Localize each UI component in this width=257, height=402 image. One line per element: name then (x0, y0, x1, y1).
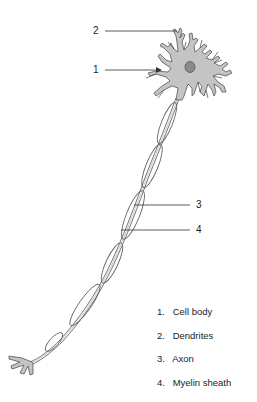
legend-item-cell-body: 1. Cell body (157, 300, 231, 324)
callout-4: 4 (196, 225, 202, 235)
legend-item-dendrites: 2. Dendrites (157, 324, 231, 348)
legend: 1. Cell body 2. Dendrites 3. Axon 4. Mye… (157, 300, 231, 394)
legend-number: 1. (157, 300, 170, 324)
legend-label: Myelin sheath (173, 377, 232, 388)
nucleus (185, 62, 195, 73)
legend-item-axon: 3. Axon (157, 347, 231, 371)
callout-2: 2 (93, 26, 99, 36)
callout-3: 3 (196, 200, 202, 210)
legend-number: 2. (157, 324, 170, 348)
legend-item-myelin-sheath: 4. Myelin sheath (157, 371, 231, 395)
legend-label: Cell body (173, 306, 213, 317)
legend-label: Dendrites (173, 330, 214, 341)
legend-number: 4. (157, 371, 170, 395)
legend-number: 3. (157, 347, 170, 371)
axon-terminal (9, 356, 33, 375)
legend-label: Axon (172, 353, 194, 364)
callout-1: 1 (93, 65, 99, 75)
